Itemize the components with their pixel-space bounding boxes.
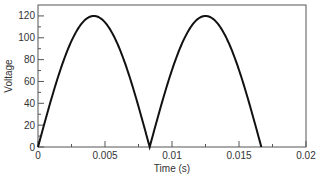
y-tick-label: 80 [24,54,36,65]
y-tick-label: 20 [24,120,36,131]
x-tick-label: 0.02 [296,150,316,161]
plot-frame [38,5,306,147]
x-tick-label: 0.01 [162,150,182,161]
x-axis-label: Time (s) [154,163,190,174]
y-axis-ticks: 020406080100120 [18,10,44,152]
y-axis-label: Voltage [3,59,14,93]
x-tick-label: 0.015 [226,150,251,161]
x-tick-label: 0 [35,150,41,161]
y-tick-label: 40 [24,98,36,109]
x-tick-label: 0.005 [92,150,117,161]
x-axis-ticks: 00.0050.010.0150.02 [35,141,316,161]
y-tick-label: 60 [24,76,36,87]
y-tick-label: 100 [18,32,35,43]
voltage-curve [38,16,261,147]
voltage-chart: 020406080100120 00.0050.010.0150.02 Time… [0,0,328,180]
y-tick-label: 120 [18,10,35,21]
